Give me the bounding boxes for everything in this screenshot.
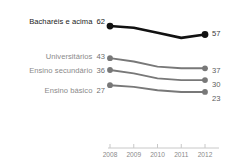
series-2-endpoint-marker [202,77,208,83]
x-axis [108,144,219,148]
line-chart: Bacharéis e acima62 Universitários43 Ens… [0,0,231,167]
series-1-endpoint-marker [202,65,208,71]
series-start-value: 36 [96,66,105,75]
x-axis-tick-label-2010: 2010 [150,151,165,159]
series-line-1 [110,58,205,68]
series-name: Ensino secundário [29,66,92,75]
series-end-value-bachareis-e-acima: 57 [212,29,220,38]
x-axis-tick-label-2012: 2012 [198,151,213,159]
series-name: Ensino básico [45,86,93,95]
x-axis-tick-label-2011: 2011 [174,151,188,159]
series-start-value: 43 [96,52,105,61]
series-layer [107,23,209,95]
series-0-endpoint-marker [202,31,209,38]
series-name: Universitários [46,52,93,61]
series-3-endpoint-marker [202,89,208,95]
series-start-value: 27 [96,86,105,95]
series-line-2 [110,70,205,80]
series-end-value-universitarios: 37 [212,66,220,75]
series-label-universitarios: Universitários43 [46,52,105,61]
series-0-endpoint-marker [107,23,114,30]
series-name: Bacharéis e acima [29,17,92,26]
series-label-ensino-secundario: Ensino secundário36 [29,66,105,75]
x-axis-tick-label-2009: 2009 [126,151,141,159]
series-start-value: 62 [96,17,105,26]
x-axis-tick-label-2008: 2008 [103,151,118,159]
series-label-ensino-basico: Ensino básico27 [45,86,105,95]
series-line-3 [110,85,205,92]
series-label-bachareis-e-acima: Bacharéis e acima62 [29,17,105,26]
series-line-0 [110,26,205,38]
series-1-endpoint-marker [107,55,113,61]
series-end-value-ensino-secundario: 30 [212,80,220,89]
series-end-value-ensino-basico: 23 [212,94,220,103]
series-2-endpoint-marker [107,67,113,73]
series-3-endpoint-marker [107,82,113,88]
